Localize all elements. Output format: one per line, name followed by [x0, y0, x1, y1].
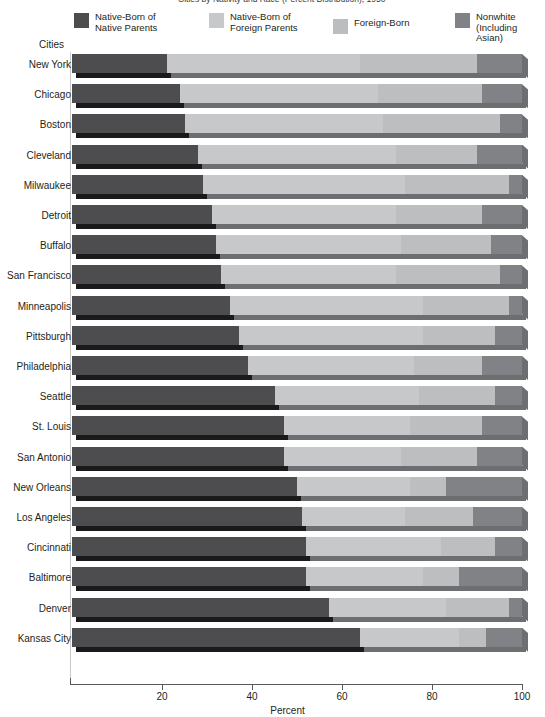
bar-segment-native-born-native-parents[interactable] [72, 567, 306, 586]
bar-segment-foreign-born[interactable] [423, 326, 495, 345]
bar-segment-foreign-born[interactable] [360, 54, 477, 73]
bar-segment-nonwhite-including-asian[interactable] [495, 537, 522, 556]
bar-segment-nonwhite-including-asian[interactable] [477, 145, 522, 164]
bar-shadow-light [202, 164, 526, 169]
bar-segment-nonwhite-including-asian[interactable] [482, 356, 523, 375]
bar-segment-native-born-foreign-parents[interactable] [221, 265, 397, 284]
bar-segment-native-born-foreign-parents[interactable] [167, 54, 361, 73]
category-label: San Antonio [17, 452, 71, 463]
bar-segment-nonwhite-including-asian[interactable] [473, 507, 523, 526]
bar-segment-native-born-native-parents[interactable] [72, 447, 284, 466]
bar-segment-native-born-native-parents[interactable] [72, 477, 297, 496]
bar-segment-foreign-born[interactable] [423, 567, 459, 586]
bar-segment-nonwhite-including-asian[interactable] [486, 628, 522, 647]
bar-segment-foreign-born[interactable] [414, 356, 482, 375]
bar-segment-foreign-born[interactable] [401, 447, 478, 466]
bar-segment-native-born-foreign-parents[interactable] [239, 326, 424, 345]
bar-segment-nonwhite-including-asian[interactable] [477, 447, 522, 466]
bar-segment-foreign-born[interactable] [446, 598, 509, 617]
bar-segment-native-born-native-parents[interactable] [72, 598, 329, 617]
bar-segment-native-born-foreign-parents[interactable] [297, 477, 410, 496]
category-label: Seattle [40, 391, 71, 402]
bar-row: Detroit [0, 203, 545, 233]
bar-segment-nonwhite-including-asian[interactable] [509, 175, 523, 194]
bar-segment-foreign-born[interactable] [441, 537, 495, 556]
x-axis-title: Percent [270, 705, 304, 716]
category-label: Kansas City [18, 633, 71, 644]
bar-shadow-light [252, 375, 527, 380]
category-label: New York [29, 59, 71, 70]
bar-segment-native-born-foreign-parents[interactable] [275, 386, 419, 405]
bar-row: New York [0, 52, 545, 82]
bar-segment-foreign-born[interactable] [378, 84, 482, 103]
bar-segment-native-born-native-parents[interactable] [72, 175, 203, 194]
bar-segment-native-born-foreign-parents[interactable] [180, 84, 378, 103]
bar-segment-native-born-foreign-parents[interactable] [203, 175, 406, 194]
bar-segment-foreign-born[interactable] [405, 507, 473, 526]
bar-segment-native-born-native-parents[interactable] [72, 235, 216, 254]
bar-segment-native-born-foreign-parents[interactable] [284, 447, 401, 466]
bar-segment-foreign-born[interactable] [419, 386, 496, 405]
bar-segment-native-born-native-parents[interactable] [72, 507, 302, 526]
bar-segment-native-born-native-parents[interactable] [72, 296, 230, 315]
bar-segment-native-born-native-parents[interactable] [72, 114, 185, 133]
bar-segment-foreign-born[interactable] [396, 265, 500, 284]
bar-row: Cleveland [0, 143, 545, 173]
bar-segment-native-born-foreign-parents[interactable] [306, 567, 423, 586]
bar-segment-nonwhite-including-asian[interactable] [491, 235, 523, 254]
bar-segment-native-born-native-parents[interactable] [72, 54, 167, 73]
bar-segment-nonwhite-including-asian[interactable] [446, 477, 523, 496]
category-label: New Orleans [13, 482, 71, 493]
bar-segment-nonwhite-including-asian[interactable] [500, 114, 523, 133]
bar-segment-foreign-born[interactable] [401, 235, 491, 254]
bar-segment-foreign-born[interactable] [423, 296, 509, 315]
bar-segment-foreign-born[interactable] [396, 145, 477, 164]
bar-segment-native-born-native-parents[interactable] [72, 265, 221, 284]
bar-shadow-dark [76, 164, 202, 169]
bar-segment-foreign-born[interactable] [410, 477, 446, 496]
bar-segment-native-born-native-parents[interactable] [72, 326, 239, 345]
bar-segment-native-born-native-parents[interactable] [72, 145, 198, 164]
bar-segment-nonwhite-including-asian[interactable] [509, 598, 523, 617]
bar-segment-foreign-born[interactable] [383, 114, 500, 133]
bar-segment-native-born-foreign-parents[interactable] [230, 296, 424, 315]
bar-segment-native-born-foreign-parents[interactable] [185, 114, 383, 133]
bar-shadow-light [207, 194, 527, 199]
bar-segment-native-born-foreign-parents[interactable] [284, 416, 410, 435]
x-axis-tick-label: 20 [156, 691, 167, 702]
bar-shadow-light [306, 526, 527, 531]
bar-segment-native-born-native-parents[interactable] [72, 205, 212, 224]
bar-segment-foreign-born[interactable] [410, 416, 482, 435]
bar-segment-native-born-foreign-parents[interactable] [248, 356, 415, 375]
bar-segment-nonwhite-including-asian[interactable] [495, 326, 522, 345]
bar-segment-nonwhite-including-asian[interactable] [477, 54, 522, 73]
bar-segment-nonwhite-including-asian[interactable] [509, 296, 523, 315]
bar-segment-foreign-born[interactable] [405, 175, 509, 194]
bar-segment-native-born-foreign-parents[interactable] [306, 537, 441, 556]
bar-shadow-dark [76, 496, 301, 501]
bar-segment-nonwhite-including-asian[interactable] [482, 416, 523, 435]
category-label: Cleveland [27, 150, 71, 161]
bar-segment-foreign-born[interactable] [396, 205, 482, 224]
bar-segment-native-born-native-parents[interactable] [72, 386, 275, 405]
bar-row: Kansas City [0, 626, 545, 656]
bar-segment-native-born-foreign-parents[interactable] [212, 205, 397, 224]
bar-segment-nonwhite-including-asian[interactable] [482, 205, 523, 224]
bar-segment-native-born-foreign-parents[interactable] [216, 235, 401, 254]
bar-segment-native-born-native-parents[interactable] [72, 84, 180, 103]
bar-segment-native-born-foreign-parents[interactable] [329, 598, 446, 617]
bar-segment-native-born-native-parents[interactable] [72, 537, 306, 556]
bar-segment-nonwhite-including-asian[interactable] [495, 386, 522, 405]
bar-segment-native-born-native-parents[interactable] [72, 356, 248, 375]
bar-segment-native-born-foreign-parents[interactable] [360, 628, 459, 647]
bar-segment-native-born-foreign-parents[interactable] [302, 507, 406, 526]
bar-segment-native-born-foreign-parents[interactable] [198, 145, 396, 164]
bar-shadow-light [333, 617, 527, 622]
bar-segment-foreign-born[interactable] [459, 628, 486, 647]
bar-segment-nonwhite-including-asian[interactable] [459, 567, 522, 586]
bar-segment-native-born-native-parents[interactable] [72, 416, 284, 435]
bar-segment-nonwhite-including-asian[interactable] [482, 84, 523, 103]
bar-shadow-dark [76, 194, 207, 199]
bar-segment-nonwhite-including-asian[interactable] [500, 265, 523, 284]
bar-segment-native-born-native-parents[interactable] [72, 628, 360, 647]
